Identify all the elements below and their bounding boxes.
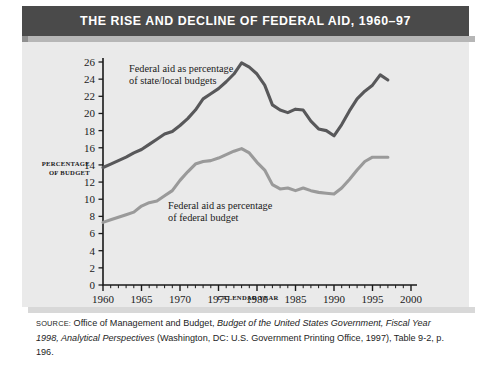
source-text-1: Office of Management and Budget, [71, 318, 217, 328]
x-tick-1990: 1990 [323, 293, 346, 305]
x-tick-1965: 1965 [131, 293, 154, 305]
x-tick-2000: 2000 [400, 293, 423, 305]
y-tick-10: 10 [84, 193, 96, 205]
source-note: SOURCE: Office of Management and Budget,… [36, 316, 446, 360]
y-axis-title-line2: OF BUDGET [49, 169, 90, 176]
y-axis-title-line1: PERCENTAGE [42, 160, 91, 167]
y-tick-26: 26 [84, 56, 96, 68]
y-tick-24: 24 [84, 73, 96, 85]
chart-axes [103, 58, 417, 285]
line-chart: 02468101214161820222426 1960196519701975… [0, 0, 484, 313]
y-tick-6: 6 [90, 227, 96, 239]
y-tick-22: 22 [84, 90, 95, 102]
annotation-federal-line2: of federal budget [168, 212, 238, 223]
y-tick-18: 18 [84, 125, 96, 137]
x-tick-1960: 1960 [92, 293, 115, 305]
x-tick-1970: 1970 [169, 293, 192, 305]
y-tick-12: 12 [84, 176, 95, 188]
chart-ticks [99, 62, 412, 291]
y-tick-0: 0 [90, 279, 96, 291]
chart-series [103, 63, 388, 223]
source-kicker: SOURCE: [36, 319, 71, 328]
annotation-state-local-line2: of state/local budgets [129, 75, 217, 86]
figure-container: THE RISE AND DECLINE OF FEDERAL AID, 196… [0, 0, 484, 377]
annotation-federal-line1: Federal aid as percentage [168, 200, 273, 211]
annotation-state-local-line1: Federal aid as percentage [129, 63, 234, 74]
x-tick-1995: 1995 [362, 293, 385, 305]
y-tick-8: 8 [90, 210, 96, 222]
y-tick-2: 2 [90, 262, 96, 274]
y-tick-20: 20 [84, 107, 96, 119]
x-tick-1985: 1985 [285, 293, 308, 305]
series-line-federal [103, 149, 388, 223]
x-axis-title: CALENDAR YEAR [217, 294, 278, 301]
y-tick-16: 16 [84, 142, 96, 154]
y-tick-4: 4 [90, 245, 96, 257]
